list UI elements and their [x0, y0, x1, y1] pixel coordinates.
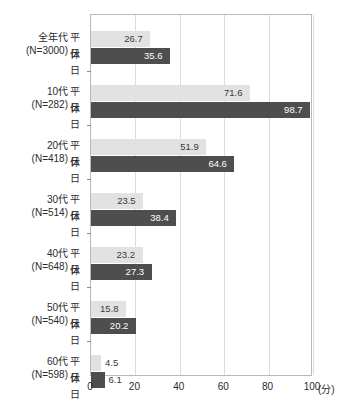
bar-value-label: 15.8 [100, 301, 119, 317]
category-label-60代: 60代(N=598) [0, 355, 68, 381]
series-label-weekday: 平日 [70, 84, 88, 100]
category-name: 60代 [47, 356, 68, 367]
category-label-30代: 30代(N=514) [0, 193, 68, 219]
series-label-weekday: 平日 [70, 30, 88, 46]
category-name: 20代 [47, 140, 68, 151]
group-tick-50代 [87, 287, 91, 288]
category-name: 50代 [47, 302, 68, 313]
x-tick-label-0: 0 [75, 381, 105, 392]
bar-value-label: 23.2 [117, 247, 136, 263]
bar-value-label: 4.5 [105, 355, 118, 371]
group-tick-60代 [87, 341, 91, 342]
series-label-holiday: 休日 [70, 317, 88, 333]
bar-row: 38.4 [91, 210, 311, 226]
series-label-weekday: 平日 [70, 138, 88, 154]
category-label-20代: 20代(N=418) [0, 139, 68, 165]
bar-row: 4.5 [91, 355, 311, 371]
bar-value-label: 38.4 [150, 210, 169, 226]
bar-row: 98.7 [91, 102, 311, 118]
series-label-weekday: 平日 [70, 246, 88, 262]
category-label-10代: 10代(N=282) [0, 85, 68, 111]
bar-60代-weekday [91, 355, 101, 371]
category-label-50代: 50代(N=540) [0, 301, 68, 327]
series-label-holiday: 休日 [70, 47, 88, 63]
category-sample-size: (N=418) [0, 152, 68, 165]
category-label-全年代: 全年代(N=3000) [0, 31, 68, 57]
group-tick-10代 [87, 71, 91, 72]
bar-value-label: 23.5 [117, 193, 136, 209]
bar-row: 23.2 [91, 247, 311, 263]
bar-row: 15.8 [91, 301, 311, 317]
x-tick-label-60: 60 [208, 381, 238, 392]
series-label-holiday: 休日 [70, 209, 88, 225]
bar-row: 35.6 [91, 48, 311, 64]
series-label-holiday: 休日 [70, 101, 88, 117]
bar-row: 27.3 [91, 264, 311, 280]
bar-value-label: 20.2 [110, 318, 129, 334]
bar-row: 26.7 [91, 31, 311, 47]
x-tick-label-40: 40 [164, 381, 194, 392]
bar-row: 23.5 [91, 193, 311, 209]
category-name: 40代 [47, 248, 68, 259]
bar-value-label: 64.6 [208, 156, 227, 172]
group-tick-30代 [87, 179, 91, 180]
bar-10代-holiday [91, 102, 310, 118]
bar-value-label: 26.7 [124, 31, 143, 47]
category-label-40代: 40代(N=648) [0, 247, 68, 273]
series-label-weekday: 平日 [70, 354, 88, 370]
bar-row: 71.6 [91, 85, 311, 101]
x-axis-unit-label: (分) [318, 381, 335, 396]
category-sample-size: (N=648) [0, 260, 68, 273]
category-sample-size: (N=514) [0, 206, 68, 219]
bar-row: 64.6 [91, 156, 311, 172]
category-sample-size: (N=540) [0, 314, 68, 327]
bar-value-label: 71.6 [224, 85, 243, 101]
x-tick-label-80: 80 [253, 381, 283, 392]
category-name: 30代 [47, 194, 68, 205]
plot-area: 26.735.671.698.751.964.623.538.423.227.3… [90, 14, 312, 376]
category-name: 全年代 [38, 32, 68, 43]
group-tick-40代 [87, 233, 91, 234]
category-sample-size: (N=598) [0, 368, 68, 381]
category-name: 10代 [47, 86, 68, 97]
category-sample-size: (N=282) [0, 98, 68, 111]
series-label-weekday: 平日 [70, 300, 88, 316]
bar-row: 51.9 [91, 139, 311, 155]
series-label-holiday: 休日 [70, 155, 88, 171]
horizontal-bar-chart: 26.735.671.698.751.964.623.538.423.227.3… [0, 0, 351, 404]
group-tick-20代 [87, 125, 91, 126]
category-sample-size: (N=3000) [0, 44, 68, 57]
gridline-100 [313, 15, 314, 375]
x-tick-label-20: 20 [119, 381, 149, 392]
bar-value-label: 27.3 [126, 264, 145, 280]
bar-value-label: 51.9 [180, 139, 199, 155]
series-label-holiday: 休日 [70, 263, 88, 279]
bar-row: 20.2 [91, 318, 311, 334]
bar-value-label: 35.6 [144, 48, 163, 64]
series-label-weekday: 平日 [70, 192, 88, 208]
bar-value-label: 98.7 [284, 102, 303, 118]
